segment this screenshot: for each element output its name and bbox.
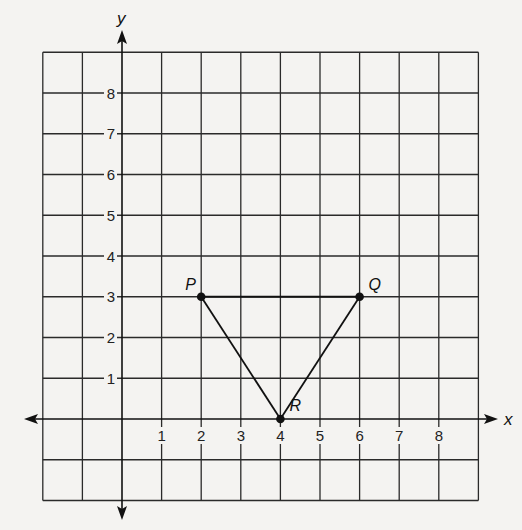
y-tick-label: 1 bbox=[107, 370, 115, 387]
y-tick-label: 8 bbox=[107, 85, 115, 102]
x-tick-label: 1 bbox=[157, 427, 165, 444]
point-label-r: R bbox=[289, 397, 301, 414]
x-tick-label: 7 bbox=[395, 427, 403, 444]
grid-lines bbox=[43, 52, 479, 500]
points: PQR bbox=[185, 276, 381, 424]
x-axis-label: x bbox=[503, 410, 513, 429]
x-tick-label: 2 bbox=[197, 427, 205, 444]
x-tick-label: 4 bbox=[276, 427, 284, 444]
y-tick-label: 5 bbox=[107, 207, 115, 224]
point-label-q: Q bbox=[369, 276, 381, 293]
y-axis-label: y bbox=[116, 9, 127, 28]
y-tick-label: 7 bbox=[107, 125, 115, 142]
x-tick-label: 8 bbox=[435, 427, 443, 444]
x-tick-label: 6 bbox=[355, 427, 363, 444]
coordinate-plane: xy 1234567812345678 PQR bbox=[0, 0, 522, 530]
x-tick-label: 3 bbox=[237, 427, 245, 444]
point-q bbox=[355, 292, 364, 301]
y-tick-label: 2 bbox=[107, 329, 115, 346]
point-label-p: P bbox=[185, 276, 196, 293]
y-tick-label: 3 bbox=[107, 288, 115, 305]
x-tick-label: 5 bbox=[316, 427, 324, 444]
point-p bbox=[197, 292, 206, 301]
point-r bbox=[276, 415, 285, 424]
tick-labels: 1234567812345678 bbox=[104, 84, 445, 444]
y-tick-label: 4 bbox=[107, 248, 115, 265]
y-tick-label: 6 bbox=[107, 166, 115, 183]
